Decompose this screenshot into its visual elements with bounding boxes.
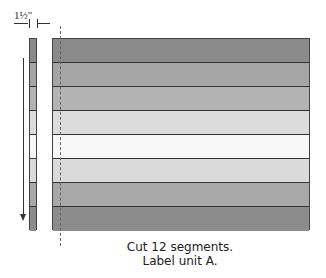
panel-row-5: [53, 135, 309, 159]
strip-row-2: [30, 63, 36, 87]
strip-row-5: [30, 135, 36, 159]
strip-row-8: [30, 207, 36, 231]
cut-segment-strip: [29, 38, 37, 230]
dimension-tick-left: [29, 19, 30, 28]
panel-row-2: [53, 63, 309, 87]
caption-line-2: Label unit A.: [120, 254, 240, 268]
caption-line-1: Cut 12 segments.: [120, 240, 240, 254]
strip-row-3: [30, 87, 36, 111]
panel-row-1: [53, 39, 309, 63]
dimension-tick-right: [37, 19, 38, 28]
panel-row-6: [53, 159, 309, 183]
strip-row-1: [30, 39, 36, 63]
panel-row-3: [53, 87, 309, 111]
panel-row-8: [53, 207, 309, 231]
dimension-arrow-right: [38, 23, 50, 24]
dimension-arrow-left: [14, 23, 28, 24]
strip-row-6: [30, 159, 36, 183]
arrow-head-icon: [20, 214, 26, 221]
arrow-shaft: [23, 58, 24, 218]
strip-set-panel: [52, 38, 310, 230]
strip-row-7: [30, 183, 36, 207]
panel-row-4: [53, 111, 309, 135]
cut-line-dashed: [60, 26, 61, 246]
caption: Cut 12 segments. Label unit A.: [120, 240, 240, 268]
panel-row-7: [53, 183, 309, 207]
strip-row-4: [30, 111, 36, 135]
